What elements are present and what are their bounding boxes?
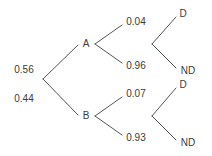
node-a: A [83,39,90,49]
edge-a-vertex-to-leaf-d [152,17,176,44]
edge-a-to-nd-prob [95,44,122,63]
probability-label-b-d: 0.07 [126,89,145,99]
edge-root-to-b [43,79,78,115]
edge-root-to-a [43,45,78,79]
tree-edges [0,0,212,156]
edge-a-to-d-prob [95,25,122,44]
probability-label-a: 0.56 [14,65,33,75]
probability-label-b-nd: 0.93 [126,133,145,143]
probability-label-a-d: 0.04 [126,17,145,27]
edge-b-to-nd-prob [95,116,122,135]
edge-b-to-d-prob [95,97,122,116]
edge-a-vertex-to-leaf-nd [152,44,176,68]
node-b: B [83,111,90,121]
leaf-a-d: D [179,9,186,19]
probability-label-b: 0.44 [14,94,33,104]
leaf-b-nd: ND [181,138,195,148]
edge-b-vertex-to-leaf-d [152,88,176,116]
probability-tree-diagram: 0.56 0.44 A B 0.04 0.96 0.07 0.93 D ND D… [0,0,212,156]
edge-b-vertex-to-leaf-nd [152,116,176,140]
probability-label-a-nd: 0.96 [126,61,145,71]
leaf-b-d: D [179,80,186,90]
leaf-a-nd: ND [181,66,195,76]
